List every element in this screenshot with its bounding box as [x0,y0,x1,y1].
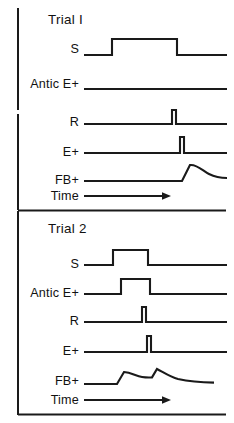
figure-container: Trial I S Antic E+ R E+ FB+ Time [0,0,234,423]
panel1-trace-r [84,110,227,124]
panel1-trace-fb-plus [84,165,227,181]
panel2-time-arrow [84,396,171,404]
panel1-label-r: R [70,115,79,129]
panel2-trace-r [84,307,227,322]
panel2-label-time: Time [51,393,79,407]
panel1-trace-s [84,39,227,55]
panel1-time-arrow [84,192,171,200]
panel2-trace-antic-e-plus [84,279,227,294]
panel2-label-fb-plus: FB+ [55,374,79,388]
timing-diagram-svg: Trial I S Antic E+ R E+ FB+ Time [0,0,234,423]
panel2-trace-s [84,250,227,265]
panel1-trace-e-plus [84,137,227,153]
figure-frame [18,8,226,415]
panel2-trace-e-plus [84,336,227,352]
panel2-title: Trial 2 [48,221,87,236]
panel2-label-s: S [70,257,79,271]
panel1-title: Trial I [48,12,83,27]
panel1-label-e-plus: E+ [63,145,79,159]
panel1-label-antic-e-plus: Antic E+ [30,77,79,91]
panel1-label-fb-plus: FB+ [55,173,79,187]
panel2-label-e-plus: E+ [63,344,79,358]
panel2-label-r: R [70,314,79,328]
panel1-label-time: Time [51,189,79,203]
panel-trial-1: Trial I S Antic E+ R E+ FB+ Time [30,12,227,203]
panel-trial-2: Trial 2 S Antic E+ R E+ FB+ Time [30,221,227,407]
panel2-label-antic-e-plus: Antic E+ [30,286,79,300]
panel1-label-s: S [70,42,79,56]
panel2-trace-fb-plus [84,369,214,384]
